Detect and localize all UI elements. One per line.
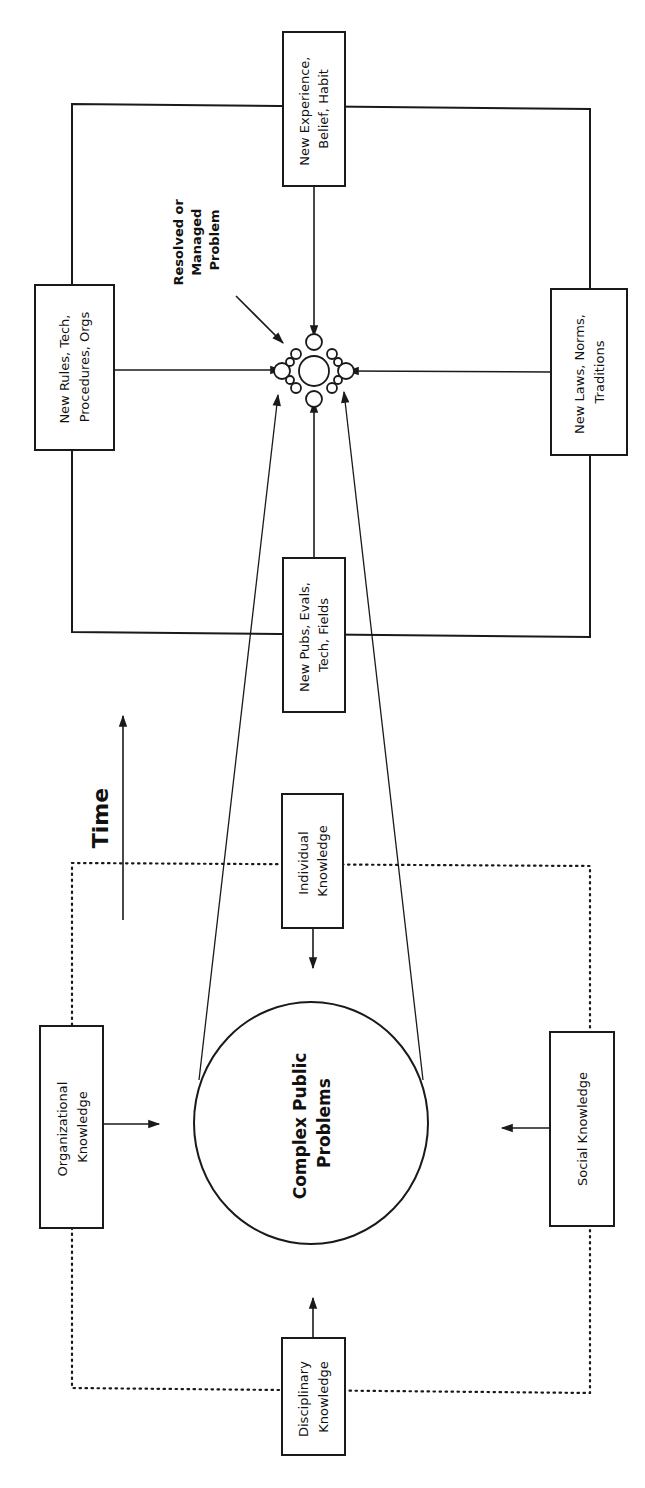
bubble-small bbox=[334, 376, 342, 384]
complex-public-problems-circle: Complex Public Problems bbox=[194, 1002, 428, 1244]
funnel-right-arrow bbox=[344, 392, 423, 1080]
knowledge-box-organizational: Organizational Knowledge bbox=[40, 1026, 103, 1228]
knowledge-box-individual: Individual Knowledge bbox=[282, 794, 343, 928]
bubble-bottom bbox=[306, 391, 322, 407]
knowledge-box-disciplinary: Disciplinary Knowledge bbox=[282, 1338, 345, 1455]
resolved-problem-cluster bbox=[274, 334, 354, 407]
knowledge-label: Social Knowledge bbox=[575, 1072, 590, 1186]
bubble-small bbox=[286, 358, 294, 366]
outcome-pointer-arrow bbox=[236, 296, 283, 343]
knowledge-box-social: Social Knowledge bbox=[550, 1032, 614, 1226]
bubble-small bbox=[327, 383, 337, 393]
time-label: Time bbox=[88, 788, 113, 848]
funnel-left-arrow bbox=[199, 395, 278, 1080]
bubble-small bbox=[291, 349, 301, 359]
new-laws-arrow bbox=[348, 371, 551, 372]
output-box-new-pubs: New Pubs, Evals, Tech, Fields bbox=[283, 558, 345, 712]
bubble-small bbox=[327, 349, 337, 359]
bubble-small bbox=[291, 383, 301, 393]
output-box-new-laws: New Laws, Norms, Traditions bbox=[551, 289, 627, 455]
bubble-small bbox=[286, 376, 294, 384]
bubble-small bbox=[334, 358, 342, 366]
output-box-new-rules: New Rules, Tech, Procedures, Orgs bbox=[35, 285, 114, 450]
diagram-canvas: Resolved or Managed Problem New Rules, T… bbox=[0, 0, 645, 1488]
output-box-new-experience: New Experience, Belief, Habit bbox=[283, 32, 345, 186]
outcome-label: Resolved or Managed Problem bbox=[171, 195, 222, 286]
bubble-top bbox=[306, 334, 322, 350]
bubble-center bbox=[299, 356, 329, 386]
